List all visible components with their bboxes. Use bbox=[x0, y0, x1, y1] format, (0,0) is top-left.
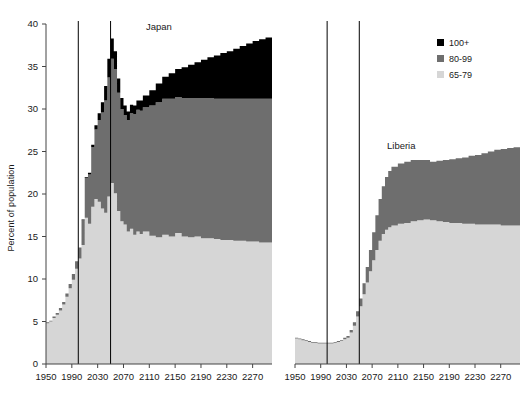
panel-liberia bbox=[295, 21, 520, 368]
legend-swatch-80-99 bbox=[437, 55, 444, 62]
y-tick-label-40: 40 bbox=[14, 18, 38, 29]
legend-label-65-79: 65-79 bbox=[449, 70, 472, 80]
legend-label-100plus: 100+ bbox=[449, 38, 469, 48]
x-tick-label-liberia-2270: 2270 bbox=[484, 371, 518, 382]
legend-swatch-65-79 bbox=[437, 71, 444, 78]
y-tick-label-35: 35 bbox=[14, 61, 38, 72]
y-ticks bbox=[42, 24, 46, 364]
x-tick-label-japan-2270: 2270 bbox=[236, 371, 270, 382]
y-tick-label-20: 20 bbox=[14, 188, 38, 199]
y-tick-label-25: 25 bbox=[14, 146, 38, 157]
panel-title-liberia: Liberia bbox=[387, 140, 416, 151]
figure: Percent of population 100+ 80-99 65-79 J… bbox=[0, 0, 530, 407]
y-axis-label-text: Percent of population bbox=[6, 138, 16, 278]
legend: 100+ 80-99 65-79 bbox=[437, 36, 472, 84]
legend-item-65-79: 65-79 bbox=[437, 68, 472, 81]
y-tick-label-0: 0 bbox=[14, 358, 38, 369]
panel-title-japan: Japan bbox=[146, 21, 172, 32]
legend-swatch-100plus bbox=[437, 39, 444, 46]
y-tick-label-15: 15 bbox=[14, 231, 38, 242]
area-65-79 bbox=[295, 220, 520, 365]
panel-japan bbox=[46, 21, 272, 368]
y-tick-label-5: 5 bbox=[14, 316, 38, 327]
legend-item-100plus: 100+ bbox=[437, 36, 472, 49]
legend-item-80-99: 80-99 bbox=[437, 52, 472, 65]
legend-label-80-99: 80-99 bbox=[449, 54, 472, 64]
y-tick-label-30: 30 bbox=[14, 103, 38, 114]
y-tick-label-10: 10 bbox=[14, 273, 38, 284]
